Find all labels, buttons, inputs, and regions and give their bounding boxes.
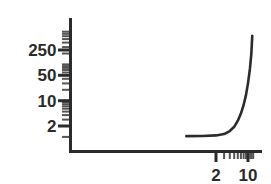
y-axis-tick-label: 10 xyxy=(38,92,57,109)
x-axis-ticks xyxy=(216,153,253,162)
chart-container: 21050250 210 xyxy=(0,0,271,183)
x-axis-tick-label: 2 xyxy=(211,167,220,184)
y-axis-tick-label: 50 xyxy=(38,67,57,84)
y-axis-group xyxy=(58,18,71,152)
data-series-curve xyxy=(186,36,252,136)
x-axis-group xyxy=(69,152,262,163)
y-axis-tick-label: 250 xyxy=(28,42,56,59)
y-axis-tick-label: 2 xyxy=(47,118,56,135)
y-axis-ticks xyxy=(58,32,69,137)
x-axis-tick-label: 10 xyxy=(239,167,258,184)
